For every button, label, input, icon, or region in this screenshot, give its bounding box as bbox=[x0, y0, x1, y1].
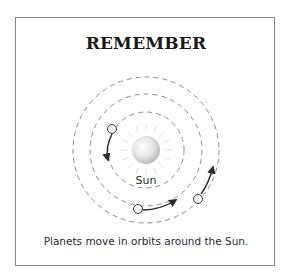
orbit-arrow-inner bbox=[107, 134, 112, 160]
card-caption: Planets move in orbits around the Sun. bbox=[0, 235, 292, 247]
planet-outer-icon bbox=[194, 195, 203, 204]
planet-inner-icon bbox=[108, 125, 117, 134]
sun-label: Sun bbox=[126, 174, 166, 187]
sun-icon bbox=[132, 136, 160, 164]
orbit-arrow-outer bbox=[201, 167, 213, 194]
planet-middle-icon bbox=[134, 205, 143, 214]
orbit-arrow-middle bbox=[143, 200, 176, 210]
